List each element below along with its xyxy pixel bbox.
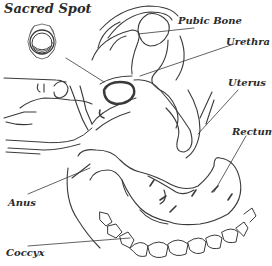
label-rectum: Rectum: [232, 127, 272, 137]
label-uterus: Uterus: [228, 78, 266, 88]
uterus-shape: [134, 80, 214, 158]
lotus-symbol-icon: [28, 24, 56, 59]
leader-lines: [28, 28, 246, 246]
anatomy-diagram: Sacred Spot Pubic Bone Urethra Uterus Re…: [0, 0, 272, 266]
diagram-title: Sacred Spot: [4, 2, 92, 15]
label-pubic-bone: Pubic Bone: [178, 16, 242, 26]
anal-canal-shape: [67, 164, 100, 248]
label-urethra: Urethra: [226, 37, 270, 47]
urethra-shape: [100, 76, 134, 104]
label-coccyx: Coccyx: [6, 248, 45, 258]
label-anus: Anus: [8, 198, 36, 208]
perineum-lines: [6, 128, 92, 154]
coccyx-vertebrae: [100, 208, 256, 258]
